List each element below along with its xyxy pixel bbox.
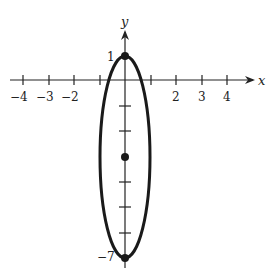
center-point (121, 153, 129, 161)
y-tick-label: 1 (107, 50, 115, 64)
ellipse-graph: y x −4 −3 −2 2 3 4 1 −7 (0, 0, 274, 268)
y-axis-label: y (120, 14, 129, 29)
vertex-top-point (121, 52, 129, 60)
x-axis-label: x (258, 73, 266, 88)
x-tick-label: −4 (10, 90, 28, 104)
x-tick-label: −3 (36, 90, 54, 104)
x-tick-label: 4 (223, 90, 231, 104)
x-tick-label: 3 (198, 90, 206, 104)
x-tick-label: −2 (61, 90, 79, 104)
vertex-bottom-point (121, 254, 129, 262)
y-tick-label: −7 (97, 250, 115, 264)
x-tick-label: 2 (172, 90, 180, 104)
